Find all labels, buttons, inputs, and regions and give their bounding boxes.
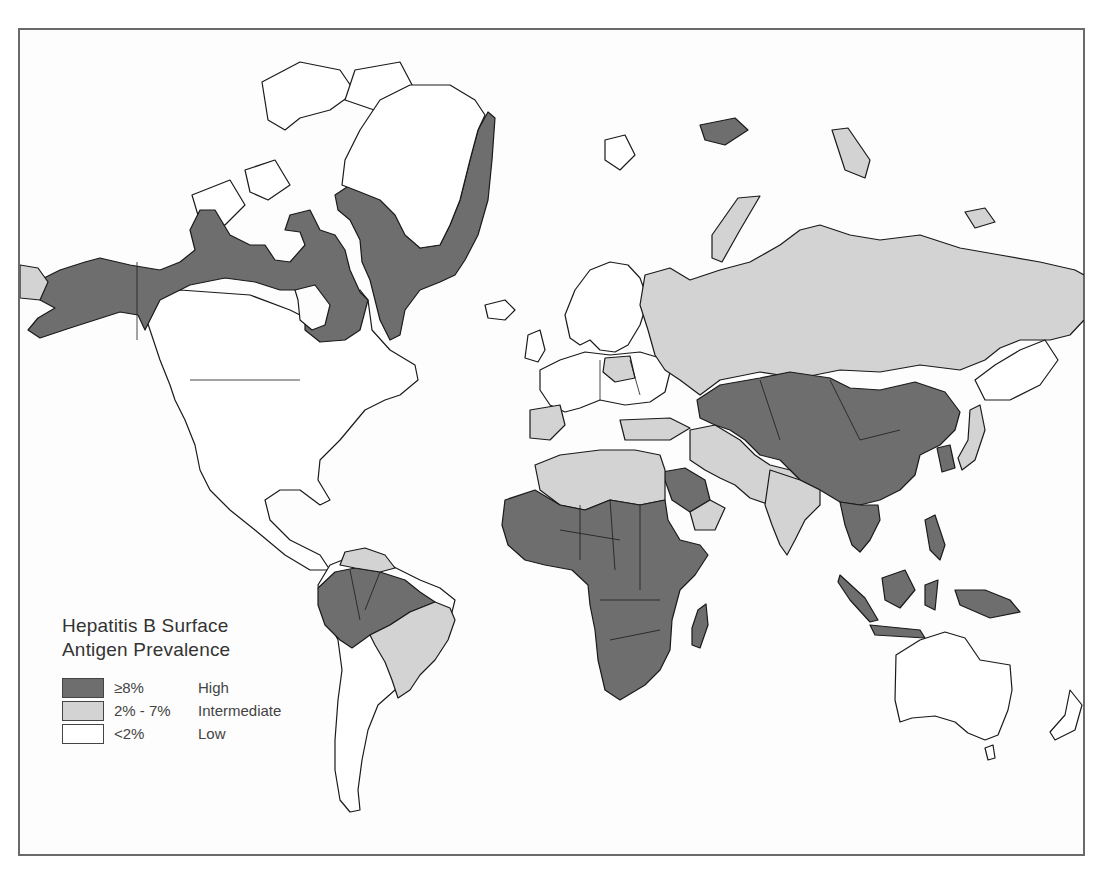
java-high xyxy=(870,625,925,638)
iceland-low xyxy=(485,300,515,320)
new-siberian-islands-intermediate xyxy=(965,208,995,228)
scandinavia-low xyxy=(565,262,648,352)
world-map xyxy=(0,0,1106,879)
north-africa-intermediate xyxy=(535,450,665,510)
legend-item-high: ≥8% High xyxy=(62,676,281,699)
franz-josef-high xyxy=(700,118,748,145)
legend-range: 2% - 7% xyxy=(114,702,198,719)
legend-item-intermediate: 2% - 7% Intermediate xyxy=(62,699,281,722)
new-zealand-low xyxy=(1050,690,1082,740)
legend-range: <2% xyxy=(114,725,198,742)
turkey-intermediate xyxy=(620,418,690,440)
sumatra-high xyxy=(838,575,878,622)
iberia-intermediate xyxy=(530,405,565,440)
legend-title-line2: Antigen Prevalence xyxy=(62,638,281,662)
novaya-zemlya-intermediate xyxy=(712,196,760,262)
legend-range: ≥8% xyxy=(114,679,198,696)
sub-saharan-africa-high xyxy=(502,490,708,700)
legend-level: Low xyxy=(198,725,226,742)
british-isles-low xyxy=(525,330,545,362)
legend-item-low: <2% Low xyxy=(62,722,281,745)
southeast-asia-high xyxy=(840,502,880,552)
philippines-high xyxy=(925,515,945,560)
legend-swatch-low xyxy=(62,724,104,744)
korea-high xyxy=(937,445,955,472)
borneo-high xyxy=(882,570,915,608)
legend-swatch-high xyxy=(62,678,104,698)
severnaya-zemlya-intermediate xyxy=(832,128,870,178)
japan-intermediate xyxy=(958,405,985,470)
sulawesi-high xyxy=(925,580,938,610)
tasmania-low xyxy=(985,745,995,760)
legend-title-line1: Hepatitis B Surface xyxy=(62,614,281,638)
legend-level: High xyxy=(198,679,229,696)
svalbard-low xyxy=(605,135,635,170)
new-guinea-high xyxy=(955,590,1020,618)
legend-level: Intermediate xyxy=(198,702,281,719)
madagascar-high xyxy=(692,604,708,648)
legend-swatch-intermediate xyxy=(62,701,104,721)
north-america-low xyxy=(140,290,418,570)
australia-low xyxy=(895,632,1012,740)
legend: Hepatitis B Surface Antigen Prevalence ≥… xyxy=(62,614,281,745)
